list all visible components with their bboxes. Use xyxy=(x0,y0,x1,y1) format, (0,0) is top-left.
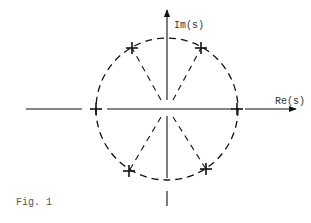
pole-upper-right-marker xyxy=(195,42,207,54)
pole-upper-left-marker xyxy=(126,42,138,54)
imaginary-axis-label: Im(s) xyxy=(174,20,204,31)
pole-left-marker xyxy=(90,103,102,115)
real-axis-label: Re(s) xyxy=(275,96,305,107)
pole-zero-diagram: Im(s) Re(s) Fig. 1 xyxy=(0,0,311,223)
pole-right-marker xyxy=(231,103,243,115)
figure-caption: Fig. 1 xyxy=(16,197,52,208)
